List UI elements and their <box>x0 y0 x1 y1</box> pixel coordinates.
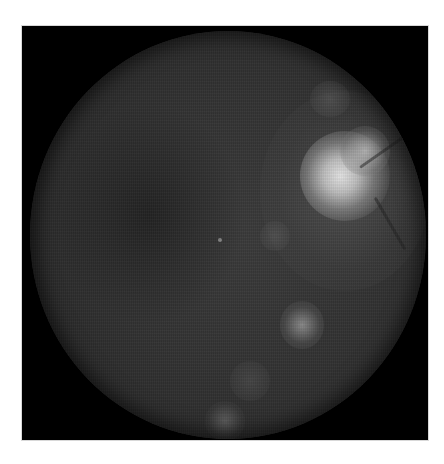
noise-texture <box>30 31 426 439</box>
blood-vessel <box>359 126 418 169</box>
faint-spot <box>230 361 270 401</box>
bright-lesion <box>205 401 245 439</box>
fovea-dot <box>218 238 222 242</box>
optic-disc <box>300 131 390 221</box>
bright-lesion <box>280 301 324 349</box>
fundus-rim-shadow <box>30 31 426 439</box>
image-frame <box>22 26 428 440</box>
blood-vessel <box>374 197 407 250</box>
faint-spot <box>260 221 290 251</box>
fundus-image <box>30 31 426 439</box>
optic-disc-halo <box>260 91 426 291</box>
faint-spot <box>310 81 350 117</box>
